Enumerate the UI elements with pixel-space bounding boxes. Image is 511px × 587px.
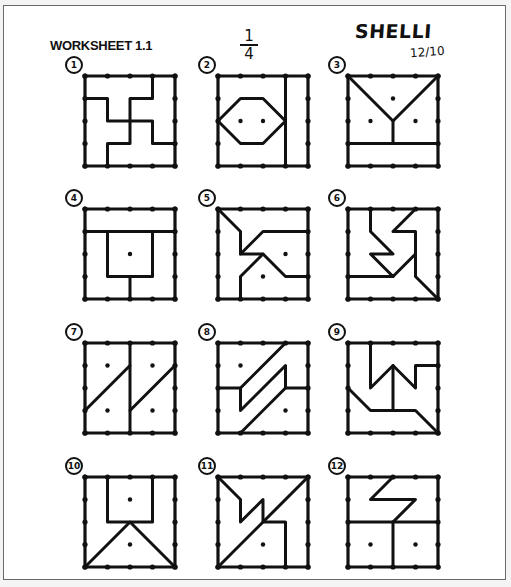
grid-dot xyxy=(238,163,243,168)
grid-dot xyxy=(305,163,310,168)
grid-dot xyxy=(435,474,440,479)
grid-dot xyxy=(305,206,310,211)
grid-dot xyxy=(150,430,155,435)
grid-dot xyxy=(305,519,310,524)
grid-dot xyxy=(105,430,110,435)
grid-dot xyxy=(283,474,288,479)
grid-dot xyxy=(390,430,395,435)
grid-dot xyxy=(345,497,350,502)
grid-dot xyxy=(82,430,87,435)
grid-dot xyxy=(172,340,177,345)
grid-dot xyxy=(413,163,418,168)
grid-dot xyxy=(105,564,110,569)
grid-dot xyxy=(368,296,373,301)
grid-dot xyxy=(82,542,87,547)
grid-dot xyxy=(127,474,132,479)
grid-dot xyxy=(413,73,418,78)
interior-dot xyxy=(150,408,154,412)
puzzle-number-badge: 1 xyxy=(65,56,83,74)
puzzle-number-badge: 10 xyxy=(65,457,83,475)
grid-dot xyxy=(435,340,440,345)
grid-dot xyxy=(305,408,310,413)
grid-dot xyxy=(435,408,440,413)
interior-dot xyxy=(105,408,109,412)
grid-dot xyxy=(435,206,440,211)
grid-dot xyxy=(215,363,220,368)
grid-dot xyxy=(150,296,155,301)
grid-dot xyxy=(82,141,87,146)
grid-dot xyxy=(345,340,350,345)
grid-dot xyxy=(215,96,220,101)
grid-dot xyxy=(127,163,132,168)
puzzle-number-badge: 11 xyxy=(198,457,216,475)
grid-dot xyxy=(260,340,265,345)
grid-dot xyxy=(345,474,350,479)
grid-dot xyxy=(413,340,418,345)
grid-dot xyxy=(283,206,288,211)
grid-dot xyxy=(260,296,265,301)
grid-dot xyxy=(82,340,87,345)
grid-dot xyxy=(345,542,350,547)
dot-grid-figure xyxy=(346,475,440,569)
grid-dot xyxy=(368,430,373,435)
grid-dot xyxy=(435,96,440,101)
grid-dot xyxy=(345,229,350,234)
grid-dot xyxy=(172,296,177,301)
grid-dot xyxy=(345,206,350,211)
grid-dot xyxy=(368,564,373,569)
grid-dot xyxy=(105,296,110,301)
dividing-line xyxy=(241,366,309,411)
puzzle-number-badge: 3 xyxy=(328,56,346,74)
grid-dot xyxy=(172,497,177,502)
dot-grid-figure xyxy=(83,341,177,435)
interior-dot xyxy=(368,119,372,123)
grid-dot xyxy=(82,163,87,168)
grid-dot xyxy=(435,542,440,547)
dividing-line xyxy=(85,366,130,411)
grid-dot xyxy=(215,229,220,234)
grid-dot xyxy=(435,564,440,569)
interior-dot xyxy=(150,363,154,367)
grid-dot xyxy=(238,340,243,345)
grid-dot xyxy=(150,206,155,211)
dividing-line xyxy=(218,209,308,254)
grid-dot xyxy=(82,251,87,256)
grid-dot xyxy=(345,363,350,368)
dividing-line xyxy=(241,388,286,433)
grid-dot xyxy=(215,251,220,256)
grid-dot xyxy=(345,564,350,569)
interior-dot xyxy=(128,252,132,256)
grid-dot xyxy=(435,163,440,168)
grid-dot xyxy=(150,564,155,569)
grid-dot xyxy=(435,118,440,123)
grid-dot xyxy=(105,340,110,345)
grid-dot xyxy=(82,296,87,301)
dividing-line xyxy=(371,343,439,388)
grid-dot xyxy=(105,206,110,211)
grid-dot xyxy=(215,274,220,279)
grid-dot xyxy=(172,206,177,211)
grid-dot xyxy=(260,430,265,435)
grid-dot xyxy=(127,206,132,211)
grid-dot xyxy=(435,251,440,256)
grid-dot xyxy=(150,340,155,345)
grid-dot xyxy=(215,408,220,413)
interior-dot xyxy=(128,542,132,546)
grid-dot xyxy=(260,564,265,569)
grid-dot xyxy=(82,118,87,123)
puzzle-number-badge: 5 xyxy=(198,189,216,207)
grid-dot xyxy=(413,474,418,479)
dividing-line xyxy=(371,209,416,277)
grid-dot xyxy=(305,118,310,123)
grid-dot xyxy=(82,73,87,78)
handwritten-date: 12/10 xyxy=(410,44,445,60)
dot-grid-figure xyxy=(346,341,440,435)
grid-dot xyxy=(172,163,177,168)
grid-dot xyxy=(215,497,220,502)
fraction-denominator: 4 xyxy=(244,45,254,63)
dot-grid-figure xyxy=(346,207,440,301)
grid-dot xyxy=(305,542,310,547)
grid-dot xyxy=(150,163,155,168)
grid-dot xyxy=(260,73,265,78)
grid-dot xyxy=(82,474,87,479)
